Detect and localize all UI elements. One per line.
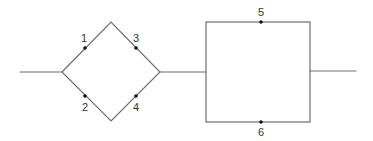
component-label-2: 2 (82, 102, 88, 113)
component-node-4 (134, 94, 138, 98)
component-node-5 (259, 20, 263, 24)
component-label-3: 3 (133, 33, 139, 44)
component-node-2 (83, 94, 87, 98)
component-label-4: 4 (133, 102, 139, 113)
component-label-5: 5 (258, 7, 264, 18)
diamond-bridge (62, 22, 160, 121)
reliability-diagram (0, 0, 373, 141)
component-node-3 (134, 46, 138, 50)
component-label-6: 6 (258, 127, 264, 138)
component-node-6 (259, 120, 263, 124)
component-node-1 (83, 46, 87, 50)
parallel-rectangle (206, 22, 310, 122)
component-label-1: 1 (81, 33, 87, 44)
